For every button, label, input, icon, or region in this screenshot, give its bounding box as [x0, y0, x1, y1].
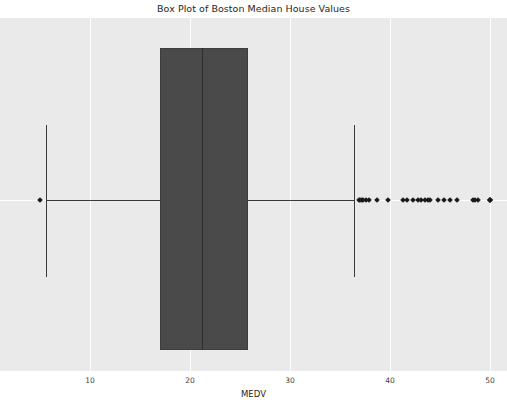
gridline-vertical	[390, 18, 391, 371]
x-axis-label: MEDV	[0, 389, 507, 399]
outlier-marker	[435, 197, 441, 203]
outlier-marker	[487, 197, 493, 203]
box-iqr	[160, 48, 248, 350]
outlier-marker	[374, 197, 380, 203]
gridline-vertical	[290, 18, 291, 371]
median-line	[202, 48, 203, 350]
outlier-marker	[404, 197, 410, 203]
plot-area	[0, 18, 507, 371]
x-tick-label: 50	[485, 376, 495, 385]
outlier-marker	[447, 197, 453, 203]
gridline-vertical	[90, 18, 91, 371]
outlier-marker	[475, 197, 481, 203]
x-tick-label: 30	[285, 376, 295, 385]
x-tick-label: 10	[85, 376, 95, 385]
x-tick-label: 20	[185, 376, 195, 385]
chart-title: Box Plot of Boston Median House Values	[0, 3, 507, 15]
whisker-low-line	[46, 200, 160, 201]
figure-canvas: Box Plot of Boston Median House Values 1…	[0, 0, 507, 403]
x-tick-label: 40	[385, 376, 395, 385]
whisker-high-cap	[354, 125, 355, 277]
outlier-marker	[37, 197, 43, 203]
gridline-vertical	[490, 18, 491, 371]
whisker-high-line	[248, 200, 354, 201]
outlier-marker	[454, 197, 460, 203]
whisker-low-cap	[46, 125, 47, 277]
outlier-marker	[366, 197, 372, 203]
outlier-marker	[441, 197, 447, 203]
